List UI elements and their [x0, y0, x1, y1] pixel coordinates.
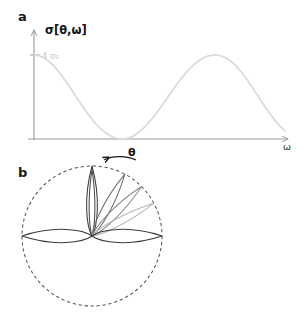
figure-root: a b 4 σ₀ σ[θ,ω] ω: [0, 0, 307, 329]
polar-lobe-vertical-lobe: [87, 166, 98, 236]
y-axis-label: σ[θ,ω]: [45, 23, 87, 37]
theta-label: θ: [128, 146, 136, 159]
figure-graphics: 4 σ₀ σ[θ,ω] ω θ: [0, 0, 307, 329]
x-axis-label: ω: [283, 141, 291, 152]
polar-lobe-horizontal-lobe-left: [22, 229, 92, 242]
polar-lobe-horizontal-lobe-right: [92, 229, 162, 242]
panel-a-plot: 4 σ₀ σ[θ,ω] ω: [28, 23, 291, 152]
polar-lobes: [22, 166, 162, 243]
theta-rotation-annotation: θ: [104, 146, 136, 160]
cross-section-curve: [34, 55, 285, 139]
panel-b-polar-plot: [22, 166, 162, 306]
